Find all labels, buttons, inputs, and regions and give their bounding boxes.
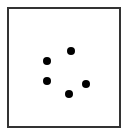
square-frame xyxy=(7,7,121,128)
dot-4 xyxy=(65,90,73,98)
dot-3 xyxy=(43,77,51,85)
dot-5 xyxy=(82,80,90,88)
dot-1 xyxy=(67,47,75,55)
dot-2 xyxy=(43,57,51,65)
